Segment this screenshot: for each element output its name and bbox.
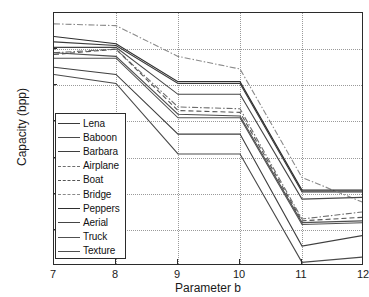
x-tick-label: 8 bbox=[112, 268, 118, 280]
x-tick-label: 10 bbox=[233, 268, 245, 280]
legend-item-aerial[interactable]: Aerial bbox=[56, 215, 125, 229]
legend-item-lena[interactable]: Lena bbox=[56, 116, 125, 130]
legend-label: Barbara bbox=[83, 146, 118, 157]
legend-label: Aerial bbox=[83, 217, 108, 228]
x-tick-label: 12 bbox=[357, 268, 369, 280]
legend-item-texture[interactable]: Texture bbox=[56, 244, 125, 258]
legend-item-barbara[interactable]: Barbara bbox=[56, 144, 125, 158]
legend-line-sample-icon bbox=[58, 190, 80, 198]
legend-item-baboon[interactable]: Baboon bbox=[56, 130, 125, 144]
legend-item-airplane[interactable]: Airplane bbox=[56, 159, 125, 173]
legend-label: Peppers bbox=[83, 203, 120, 214]
legend-label: Airplane bbox=[83, 160, 119, 171]
x-tick-label: 7 bbox=[50, 268, 56, 280]
legend-line-sample-icon bbox=[58, 162, 80, 170]
legend-label: Truck bbox=[83, 231, 107, 242]
legend-label: Texture bbox=[83, 245, 115, 256]
x-tick-mark bbox=[301, 259, 302, 264]
legend-line-sample-icon bbox=[58, 133, 80, 141]
legend-item-truck[interactable]: Truck bbox=[56, 230, 125, 244]
legend-line-sample-icon bbox=[58, 233, 80, 241]
x-tick-label: 11 bbox=[295, 268, 306, 280]
x-tick-label: 9 bbox=[174, 268, 180, 280]
legend-item-peppers[interactable]: Peppers bbox=[56, 201, 125, 215]
legend-line-sample-icon bbox=[58, 119, 80, 127]
legend-label: Bridge bbox=[83, 189, 111, 200]
legend-item-bridge[interactable]: Bridge bbox=[56, 187, 125, 201]
legend-line-sample-icon bbox=[58, 176, 80, 184]
legend: LenaBaboonBarbaraAirplaneBoatBridgePeppe… bbox=[55, 113, 126, 259]
legend-line-sample-icon bbox=[58, 218, 80, 226]
y-tick-mark bbox=[53, 48, 57, 49]
x-tick-mark bbox=[239, 259, 240, 264]
y-axis-label: Capacity (bpp) bbox=[15, 67, 29, 187]
legend-label: Baboon bbox=[83, 132, 117, 143]
x-tick-mark bbox=[115, 259, 116, 264]
y-tick-mark bbox=[53, 84, 57, 85]
x-axis-label: Parameter b bbox=[53, 281, 363, 295]
legend-line-sample-icon bbox=[58, 247, 80, 255]
legend-line-sample-icon bbox=[58, 147, 80, 155]
x-tick-mark bbox=[177, 259, 178, 264]
legend-label: Boat bbox=[83, 174, 103, 185]
legend-line-sample-icon bbox=[58, 204, 80, 212]
legend-item-boat[interactable]: Boat bbox=[56, 173, 125, 187]
legend-label: Lena bbox=[83, 118, 105, 129]
